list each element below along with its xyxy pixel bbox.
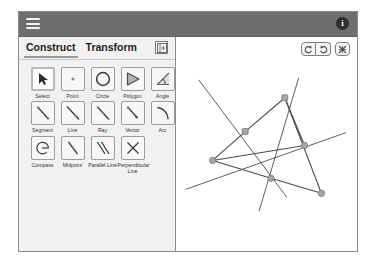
tool-circle[interactable]: Circle (88, 67, 117, 101)
point-F (318, 190, 324, 196)
hamburger-bar-2 (26, 23, 40, 25)
point-icon[interactable] (61, 67, 85, 91)
circle-glyph (94, 70, 112, 88)
tool-row-1: Select Point (28, 67, 175, 101)
tool-midpoint[interactable]: Midpoint (58, 136, 87, 177)
tab-strip: Construct Transform (19, 37, 175, 60)
ray-icon[interactable] (91, 101, 115, 125)
tab-construct[interactable]: Construct (26, 41, 76, 56)
parallel-line-icon[interactable] (91, 136, 115, 160)
point-E (301, 142, 307, 148)
tool-polygon[interactable]: Polygon (118, 67, 147, 101)
cursor-arrow-icon[interactable] (31, 67, 55, 91)
tool-angle[interactable]: Angle (148, 67, 177, 101)
tool-label-segment: Segment (28, 127, 58, 133)
tool-label-vector: Vector (118, 127, 148, 133)
compass-icon[interactable] (31, 136, 55, 160)
vector-icon[interactable] (121, 101, 145, 125)
tool-label-perpendicular-line: Perpendicular Line (118, 162, 148, 175)
angle-icon[interactable] (151, 67, 175, 91)
redo-arrow-glyph (318, 44, 329, 55)
cursor-arrow-glyph (35, 71, 51, 87)
point-A (282, 95, 288, 101)
ray-glyph (94, 104, 112, 122)
point-D (268, 175, 274, 181)
tool-grid: Select Point (19, 60, 175, 177)
point-glyph (65, 71, 81, 87)
panel-collapse-glyph (157, 43, 167, 53)
redo-arrow-icon[interactable] (316, 42, 331, 56)
undo-arrow-glyph (303, 44, 314, 55)
hamburger-bar-1 (26, 18, 40, 20)
tool-label-line: Line (58, 127, 88, 133)
arc-glyph (154, 104, 172, 122)
tool-point[interactable]: Point (58, 67, 87, 101)
parallel-line-glyph (94, 139, 112, 157)
tool-label-point: Point (58, 93, 88, 99)
perpendicular-line-glyph (124, 139, 142, 157)
segment-icon[interactable] (31, 101, 55, 125)
line-glyph (64, 104, 82, 122)
tool-segment[interactable]: Segment (28, 101, 57, 135)
polygon-glyph (124, 70, 142, 88)
tool-select[interactable]: Select (28, 67, 57, 101)
tool-parallel-line[interactable]: Parallel Line (88, 136, 117, 177)
undo-arrow-icon[interactable] (301, 42, 316, 56)
point-C (209, 157, 215, 163)
midpoint-icon[interactable] (61, 136, 85, 160)
tool-label-polygon: Polygon (118, 93, 148, 99)
tool-row-2: Segment Line (28, 101, 175, 135)
clear-all-glyph (337, 44, 348, 55)
circle-icon[interactable] (91, 67, 115, 91)
hamburger-menu-icon[interactable] (26, 17, 40, 30)
window-body: Construct Transform (19, 37, 357, 251)
tool-label-arc: Arc (148, 127, 178, 133)
tab-transform[interactable]: Transform (86, 41, 137, 56)
tool-perpendicular-line[interactable]: Perpendicular Line (118, 136, 147, 177)
geometry-canvas[interactable] (176, 37, 357, 251)
app-header-bar: i (19, 12, 357, 37)
vector-glyph (124, 104, 142, 122)
tool-label-angle: Angle (148, 93, 178, 99)
tool-ray[interactable]: Ray (88, 101, 117, 135)
tool-line[interactable]: Line (58, 101, 87, 135)
polygon-icon[interactable] (121, 67, 145, 91)
midpoint-glyph (64, 139, 82, 157)
point-B (242, 129, 248, 135)
arc-icon[interactable] (151, 101, 175, 125)
tool-vector[interactable]: Vector (118, 101, 147, 135)
tool-label-parallel-line: Parallel Line (88, 162, 118, 168)
geometry-construction[interactable] (176, 37, 357, 251)
line-icon[interactable] (61, 101, 85, 125)
tool-label-ray: Ray (88, 127, 118, 133)
segment-glyph (34, 104, 52, 122)
tool-compass[interactable]: Compass (28, 136, 57, 177)
tool-panel: Construct Transform (19, 37, 176, 251)
panel-collapse-icon[interactable] (155, 41, 168, 54)
tool-arc[interactable]: Arc (148, 101, 177, 135)
tool-row-3: Compass Midpoint (28, 136, 175, 177)
hamburger-bar-3 (26, 27, 40, 29)
tool-label-compass: Compass (28, 162, 58, 168)
compass-glyph (34, 139, 52, 157)
info-icon[interactable]: i (336, 17, 349, 30)
line-2 (259, 78, 299, 211)
tool-label-select: Select (28, 93, 58, 99)
canvas-toolbar (301, 42, 350, 56)
clear-all-icon[interactable] (335, 42, 350, 56)
segment-AE (285, 98, 305, 146)
tool-label-midpoint: Midpoint (58, 162, 88, 168)
segment-AB (245, 98, 285, 132)
angle-glyph (154, 70, 172, 88)
tool-label-circle: Circle (88, 93, 118, 99)
perpendicular-line-icon[interactable] (121, 136, 145, 160)
application-window: i Construct Transform (18, 11, 358, 252)
segment-CD (213, 160, 271, 178)
